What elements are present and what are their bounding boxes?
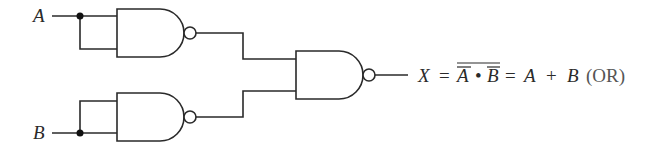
- or-note: (OR): [586, 65, 625, 87]
- nand-or-circuit: A B X = A • B = A + B (OR): [0, 0, 654, 151]
- wire-a-loop: [80, 16, 117, 49]
- wire-b-loop: [80, 101, 117, 133]
- inversion-bubble-2: [184, 111, 196, 123]
- sum-term-b: B: [567, 65, 579, 86]
- wire-gate1-to-gate3: [196, 33, 296, 59]
- term-b-bar: B: [487, 65, 499, 86]
- junction-dot-b: [77, 130, 84, 137]
- term-a-bar: A: [455, 65, 469, 86]
- sum-term-a: A: [522, 65, 536, 86]
- inversion-bubble-1: [184, 27, 196, 39]
- input-label-b: B: [33, 122, 45, 143]
- junction-dot-a: [77, 13, 84, 20]
- wire-gate2-to-gate3: [196, 91, 296, 117]
- inversion-bubble-3: [363, 69, 375, 81]
- input-label-a: A: [31, 5, 45, 26]
- nand-gate-1: [117, 9, 184, 57]
- equals-1: =: [439, 65, 450, 86]
- equals-2: =: [505, 65, 516, 86]
- output-label-x: X: [417, 65, 431, 86]
- nand-gate-2: [117, 93, 184, 141]
- plus-sign: +: [546, 65, 557, 86]
- nand-gate-3: [296, 51, 363, 99]
- and-dot: •: [475, 65, 482, 86]
